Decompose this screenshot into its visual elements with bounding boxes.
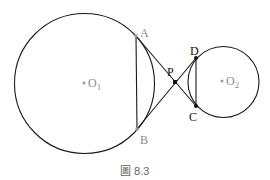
point-a	[135, 35, 138, 38]
line-apc	[136, 36, 196, 106]
point-o2	[221, 80, 224, 83]
label-c: C	[189, 110, 197, 124]
label-o2: O2	[226, 74, 239, 90]
label-d: D	[190, 44, 199, 58]
label-o1: O1	[88, 76, 101, 92]
point-c	[194, 104, 198, 108]
label-p: P	[167, 65, 174, 79]
point-o1	[83, 82, 86, 85]
label-o2-letter: O	[226, 74, 235, 88]
label-o1-subscript: 1	[97, 82, 102, 92]
point-p	[173, 80, 177, 84]
point-b	[136, 128, 139, 131]
label-a: A	[140, 26, 149, 40]
chord-ab	[136, 36, 137, 129]
figure-caption: 圖 8.3	[120, 165, 149, 177]
label-o1-letter: O	[88, 76, 97, 90]
geometry-figure: A B P D C O1 O2 圖 8.3	[0, 0, 270, 180]
label-b: B	[140, 133, 148, 147]
label-o2-subscript: 2	[235, 80, 240, 90]
